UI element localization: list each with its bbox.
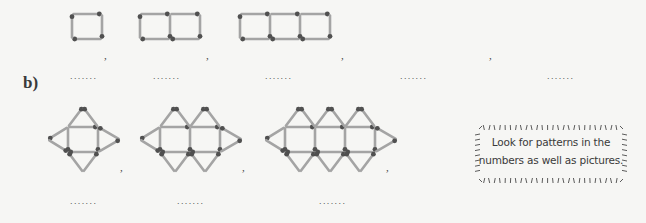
separator-comma: , bbox=[489, 50, 492, 61]
matchstick bbox=[84, 152, 99, 171]
matchstick bbox=[82, 107, 97, 126]
matchstick bbox=[240, 37, 268, 42]
tip-text-line-2: numbers as well as pictures. bbox=[470, 154, 632, 166]
matchstick bbox=[343, 129, 348, 152]
matchstick bbox=[192, 125, 220, 130]
matchstick bbox=[373, 129, 378, 152]
matchstick bbox=[161, 107, 176, 126]
matchstick bbox=[266, 140, 285, 153]
matchstick bbox=[315, 150, 343, 155]
matchstick bbox=[72, 37, 100, 42]
matchstick bbox=[188, 129, 193, 152]
tip-bubble: Look for patterns in the numbers as well… bbox=[470, 120, 632, 188]
matchstick bbox=[138, 14, 143, 37]
matchstick bbox=[347, 125, 375, 130]
matchstick bbox=[49, 140, 68, 153]
matchstick bbox=[174, 107, 189, 126]
matchstick bbox=[70, 125, 98, 130]
matchstick bbox=[67, 152, 82, 171]
matchstick bbox=[191, 107, 206, 126]
matchstick bbox=[140, 37, 168, 42]
matchstick bbox=[158, 129, 163, 152]
matchstick bbox=[331, 152, 346, 171]
matchstick bbox=[328, 16, 333, 39]
matchstick bbox=[286, 107, 301, 126]
matchstick bbox=[302, 12, 330, 17]
matchstick bbox=[66, 129, 71, 152]
matchstick-figures bbox=[0, 0, 646, 223]
answer-blank-b-2[interactable]: ....... bbox=[177, 197, 204, 206]
part-b-figure-1 bbox=[48, 107, 120, 171]
matchstick bbox=[142, 12, 170, 17]
matchstick bbox=[346, 107, 361, 126]
matchstick bbox=[69, 107, 84, 126]
matchstick bbox=[265, 128, 284, 141]
matchstick bbox=[287, 125, 315, 130]
separator-comma: , bbox=[386, 162, 389, 173]
matchstick bbox=[359, 107, 374, 126]
answer-blank-b-1[interactable]: ....... bbox=[70, 197, 97, 206]
matchstick bbox=[314, 152, 329, 171]
matchstick bbox=[242, 12, 270, 17]
part-a-figure-3 bbox=[238, 12, 333, 42]
matchstick bbox=[68, 150, 96, 155]
part-a-figure-1 bbox=[70, 12, 105, 42]
matchstick bbox=[375, 126, 396, 139]
part-b-figures bbox=[48, 107, 397, 171]
separator-comma: , bbox=[242, 162, 245, 173]
matchstick bbox=[268, 16, 273, 39]
matchstick bbox=[162, 125, 190, 130]
matchstick bbox=[190, 150, 218, 155]
matchstick bbox=[270, 37, 298, 42]
matchstick bbox=[100, 16, 105, 39]
matchstick bbox=[176, 152, 191, 171]
matchstick bbox=[99, 138, 120, 151]
matchstick bbox=[300, 37, 328, 42]
matchstick bbox=[283, 129, 288, 152]
separator-comma: , bbox=[206, 50, 209, 61]
answer-blank-a-4[interactable]: ....... bbox=[400, 72, 427, 81]
matchstick bbox=[206, 152, 221, 171]
part-a-figures bbox=[70, 12, 333, 42]
matchstick bbox=[141, 140, 160, 153]
answer-blank-a-2[interactable]: ....... bbox=[153, 72, 180, 81]
part-b-figure-2 bbox=[140, 107, 242, 171]
matchstick bbox=[160, 150, 188, 155]
part-b-figure-3 bbox=[265, 107, 397, 171]
separator-comma: , bbox=[120, 162, 123, 173]
answer-blank-a-3[interactable]: ....... bbox=[265, 72, 292, 81]
matchstick bbox=[301, 152, 316, 171]
matchstick bbox=[317, 125, 345, 130]
matchstick bbox=[361, 152, 376, 171]
matchstick bbox=[140, 128, 159, 141]
matchstick bbox=[198, 16, 203, 39]
matchstick bbox=[238, 14, 243, 37]
matchstick bbox=[159, 152, 174, 171]
matchstick bbox=[96, 129, 101, 152]
matchstick bbox=[221, 138, 242, 151]
matchstick bbox=[74, 12, 102, 17]
matchstick bbox=[299, 107, 314, 126]
part-b-label: b) bbox=[23, 73, 38, 93]
separator-comma: , bbox=[341, 50, 344, 61]
matchstick bbox=[345, 150, 373, 155]
matchstick bbox=[168, 16, 173, 39]
matchstick bbox=[220, 126, 241, 139]
matchstick bbox=[298, 16, 303, 39]
answer-blank-a-1[interactable]: ....... bbox=[70, 72, 97, 81]
matchstick bbox=[172, 12, 200, 17]
matchstick bbox=[170, 37, 198, 42]
matchstick bbox=[218, 129, 223, 152]
matchstick bbox=[189, 152, 204, 171]
matchstick bbox=[98, 126, 119, 139]
matchstick bbox=[316, 107, 331, 126]
matchstick bbox=[376, 138, 397, 151]
matchstick bbox=[48, 128, 67, 141]
matchstick bbox=[313, 129, 318, 152]
answer-blank-a-5[interactable]: ....... bbox=[547, 72, 574, 81]
matchstick bbox=[70, 14, 75, 37]
matchstick bbox=[344, 152, 359, 171]
matchstick bbox=[284, 152, 299, 171]
part-a-figure-2 bbox=[138, 12, 203, 42]
answer-blank-b-3[interactable]: ....... bbox=[319, 197, 346, 206]
